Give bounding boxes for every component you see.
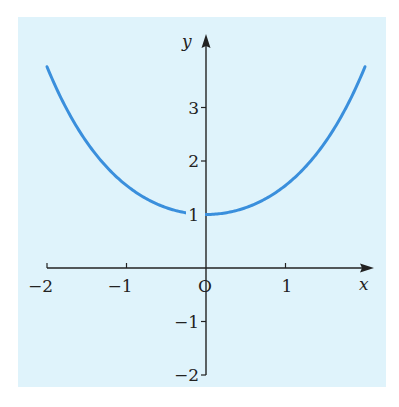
x-tick-label: −1 <box>107 276 132 296</box>
y-tick-label: −2 <box>174 365 199 385</box>
y-tick-label: −1 <box>174 312 199 332</box>
y-tick-label: 2 <box>188 151 199 171</box>
y-tick-label: 3 <box>188 98 199 118</box>
x-tick-label: 1 <box>282 276 293 296</box>
plot-background <box>18 17 386 387</box>
y-axis-label: y <box>181 31 192 51</box>
x-axis-label: x <box>359 274 369 294</box>
y-tick-label: 1 <box>188 205 199 225</box>
plot-area: −2−1O1−2−123 y x 1 <box>0 0 399 407</box>
x-tick-label: −2 <box>28 276 53 296</box>
x-tick-label: O <box>198 276 212 296</box>
